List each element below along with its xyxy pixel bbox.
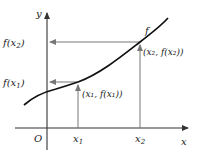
- fx2-tick-label: f(x2): [2, 37, 25, 50]
- y-axis-label: y: [35, 8, 42, 19]
- x1-tick-label: x1: [73, 133, 83, 146]
- x-axis-label: x: [181, 136, 187, 147]
- function-graph: y x O f x1 x2 f(x2) f(x1) (x₁, f(x₁)) (x…: [0, 0, 200, 156]
- point-2-coord-label: (x₂, f(x₂)): [143, 47, 184, 57]
- origin-label: O: [34, 133, 42, 144]
- x2-tick-label: x2: [135, 133, 146, 146]
- point-1-coord-label: (x₁, f(x₁)): [82, 89, 123, 99]
- fx1-tick-label: f(x1): [2, 77, 25, 90]
